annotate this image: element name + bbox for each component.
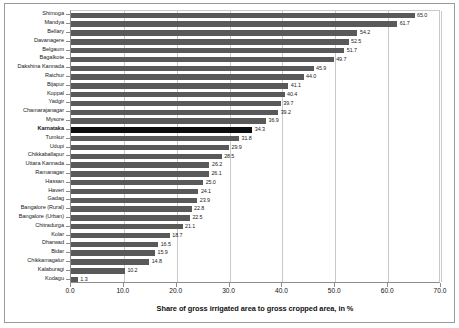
- bar-row: 29.9: [71, 145, 439, 150]
- category-label: Tumkur: [46, 135, 64, 141]
- bar-row: 45.9: [71, 66, 439, 71]
- category-label: Chikkamagalur: [27, 258, 64, 264]
- bar-value-label: 61.7: [400, 21, 410, 26]
- bar: [71, 154, 222, 159]
- category-label: Chamarajanagar: [23, 108, 64, 114]
- bar-highlight: [71, 127, 252, 132]
- bar-value-label: 54.2: [360, 30, 370, 35]
- bar: [71, 171, 209, 176]
- bar-row: 51.7: [71, 48, 439, 53]
- bar-value-label: 16.5: [161, 242, 171, 247]
- bar-value-label: 39.2: [281, 110, 291, 115]
- category-label: Haveri: [48, 188, 64, 194]
- category-label: Ramanagar: [35, 170, 64, 176]
- bar-row: 25.0: [71, 180, 439, 185]
- x-tick-label: 50.0: [328, 288, 341, 295]
- bar-row: 40.4: [71, 92, 439, 97]
- bar: [71, 66, 314, 71]
- bar-row: 10.2: [71, 268, 439, 273]
- bar-value-label: 18.7: [172, 233, 182, 238]
- category-label: Mysore: [46, 117, 64, 123]
- bar-row: 28.5: [71, 154, 439, 159]
- bar-value-label: 28.5: [224, 154, 234, 159]
- category-label: Kolar: [51, 232, 64, 238]
- category-label: Uttara Kannada: [26, 161, 64, 167]
- bar-row: 49.7: [71, 57, 439, 62]
- bar: [71, 39, 349, 44]
- bar: [71, 83, 288, 88]
- bar-row: 31.8: [71, 136, 439, 141]
- bar-value-label: 65.0: [417, 13, 427, 18]
- bar-row: 21.1: [71, 224, 439, 229]
- category-label: Udupi: [50, 144, 64, 150]
- category-label: Bidar: [51, 249, 64, 255]
- category-label: Chikkaballapur: [28, 152, 64, 158]
- bar-value-label: 24.1: [201, 189, 211, 194]
- bar-row: 34.3: [71, 127, 439, 132]
- x-tick-label: 30.0: [222, 288, 235, 295]
- bar-value-label: 22.5: [192, 215, 202, 220]
- bar: [71, 162, 209, 167]
- x-tick-label: 60.0: [381, 288, 394, 295]
- bar-row: 22.8: [71, 206, 439, 211]
- bar-row: 54.2: [71, 30, 439, 35]
- bar-value-label: 14.8: [152, 259, 162, 264]
- x-axis-title: Share of gross irrigated area to gross c…: [70, 305, 440, 312]
- bar: [71, 242, 158, 247]
- bar-value-label: 29.9: [232, 145, 242, 150]
- bar-value-label: 44.0: [306, 74, 316, 79]
- bar-value-label: 15.9: [158, 250, 168, 255]
- bar-value-label: 36.9: [269, 118, 279, 123]
- bar: [71, 92, 285, 97]
- bar-value-label: 45.9: [316, 66, 326, 71]
- bar-value-label: 41.1: [291, 83, 301, 88]
- category-label: Kalaburagi: [38, 267, 64, 273]
- bar-row: 24.1: [71, 189, 439, 194]
- bar-value-label: 40.4: [287, 92, 297, 97]
- x-tick-label: 70.0: [434, 288, 447, 295]
- bar-value-label: 10.2: [127, 268, 137, 273]
- category-label: Belgaum: [42, 47, 64, 53]
- bar-row: 18.7: [71, 233, 439, 238]
- x-tick-label: 10.0: [116, 288, 129, 295]
- bar-row: 39.2: [71, 110, 439, 115]
- category-label: Raichur: [45, 73, 64, 79]
- bar-row: 41.1: [71, 83, 439, 88]
- bar: [71, 136, 239, 141]
- bar: [71, 268, 125, 273]
- bar: [71, 101, 281, 106]
- category-label: Koppal: [47, 91, 64, 97]
- bar: [71, 215, 190, 220]
- category-label: Hassan: [45, 179, 64, 185]
- gridline: [441, 11, 442, 282]
- bar: [71, 74, 304, 79]
- bar: [71, 118, 266, 123]
- bar: [71, 277, 78, 282]
- bar-row: 52.5: [71, 39, 439, 44]
- category-label: Karnataka: [37, 126, 64, 132]
- bar-row: 23.9: [71, 198, 439, 203]
- bar-row: 26.2: [71, 162, 439, 167]
- bar: [71, 110, 278, 115]
- bar: [71, 180, 203, 185]
- bar-row: 16.5: [71, 242, 439, 247]
- bar: [71, 259, 149, 264]
- bar: [71, 48, 344, 53]
- bar-row: 26.1: [71, 171, 439, 176]
- x-tick-label: 0.0: [65, 288, 74, 295]
- category-label: Dakshina Kannada: [18, 64, 64, 70]
- bar: [71, 189, 198, 194]
- x-tick-label: 20.0: [169, 288, 182, 295]
- bar-value-label: 22.8: [194, 206, 204, 211]
- bar: [71, 21, 397, 26]
- bar-value-label: 26.2: [212, 162, 222, 167]
- bar-value-label: 31.8: [242, 136, 252, 141]
- bar: [71, 145, 229, 150]
- bar-row: 22.5: [71, 215, 439, 220]
- category-label: Yadgir: [49, 99, 64, 105]
- bar: [71, 198, 197, 203]
- bar: [71, 206, 192, 211]
- bar-value-label: 34.3: [255, 127, 265, 132]
- category-label: Mandya: [44, 20, 64, 26]
- bar-series: 65.061.754.252.551.749.745.944.041.140.4…: [71, 11, 439, 282]
